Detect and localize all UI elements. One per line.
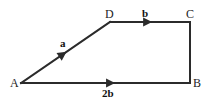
diagram-canvas	[0, 0, 208, 100]
edge-a-d-arrowhead-icon	[57, 52, 67, 61]
vertex-label-C: C	[186, 8, 194, 20]
vector-label-b: b	[142, 8, 148, 19]
vertex-label-A: A	[10, 77, 19, 89]
vertex-label-B: B	[193, 77, 201, 89]
arrowheads-group	[57, 17, 153, 87]
edges-group	[21, 22, 190, 83]
vector-label-a: a	[60, 38, 66, 49]
vector-label-2b: 2b	[102, 88, 114, 99]
vertex-label-D: D	[105, 8, 114, 20]
vector-diagram-figure: A B C D a b 2b	[0, 0, 208, 100]
